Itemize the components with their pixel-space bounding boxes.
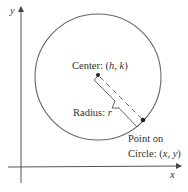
circle-diagram: y x Center: (h, k) Radius: r Point on Ci… [0,0,188,192]
radius-brace [94,77,140,127]
center-point [96,73,100,77]
center-label: Center: (h, k) [72,60,128,72]
point-label-line1: Point on [128,133,164,144]
x-axis [8,166,181,167]
radius-label: Radius: r [73,107,113,118]
circle-point [141,118,146,123]
x-axis-label: x [169,169,175,180]
y-axis-label: y [9,5,15,16]
point-label-line2: Circle: (x, y) [128,148,181,160]
